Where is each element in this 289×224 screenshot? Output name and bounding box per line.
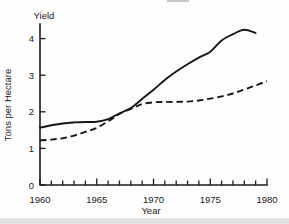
screenshot-bottom-strip — [0, 218, 289, 224]
y-tick-label: 3 — [29, 70, 34, 81]
y-tick-label: 0 — [29, 180, 34, 191]
scan-artifact-smudge — [167, 0, 189, 2]
x-tick-label: 1970 — [143, 194, 164, 205]
y-axis-label: Tons per Hectare — [2, 69, 13, 141]
yield-chart: 0123419601965197019751980 Yield Year Ton… — [0, 0, 289, 218]
x-tick-label: 1965 — [86, 194, 107, 205]
y-tick-label: 1 — [29, 143, 34, 154]
x-axis-label: Year — [141, 205, 160, 216]
y-tick-label: 2 — [29, 106, 34, 117]
y-tick-label: 4 — [29, 33, 34, 44]
plot-axes: 0123419601965197019751980 — [29, 24, 278, 205]
x-tick-label: 1975 — [200, 194, 221, 205]
solid-series-line — [40, 30, 256, 128]
chart-title: Yield — [34, 10, 55, 21]
axis-spine — [40, 24, 267, 185]
plot-series — [40, 30, 267, 141]
x-tick-label: 1960 — [29, 194, 50, 205]
x-tick-label: 1980 — [256, 194, 277, 205]
yield-line-chart-figure: 0123419601965197019751980 Yield Year Ton… — [0, 0, 289, 224]
